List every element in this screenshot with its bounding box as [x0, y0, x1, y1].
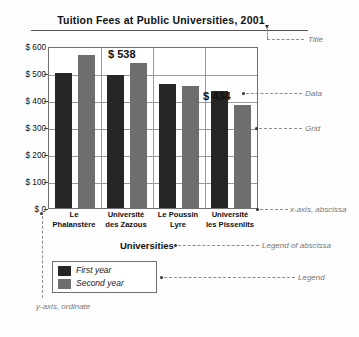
bar-second-year-universite-les-pissenlits[interactable] [234, 105, 251, 208]
yaxis-callout-dot-icon [40, 212, 43, 215]
data-callout-line [246, 93, 302, 94]
abscissa-legend-callout-dot-icon [174, 244, 177, 247]
x-category-universite-les-pissenlits: Université les Pissenlits [204, 210, 256, 229]
bar-first-year-le-poussin-lyre[interactable] [159, 84, 176, 208]
plot-area [48, 47, 258, 209]
legend-label-first-year: First year [76, 265, 111, 275]
legend-swatch-first-year [58, 266, 71, 276]
x-category-line-2: Lyre [152, 220, 204, 230]
chart-page: Tuition Fees at Public Universities, 200… [0, 0, 359, 337]
annotation-y-axis: y-axis, ordinate [36, 302, 90, 311]
annotation-legend-of-abscissa: Legend of abscissa [262, 241, 331, 250]
bar-first-year-le-phalanstere[interactable] [55, 73, 72, 208]
title-callout-vline [267, 29, 268, 39]
annotation-title: Title [308, 35, 323, 44]
y-axis-tick-marks [0, 47, 48, 209]
x-category-universite-des-zazous: Université des Zazous [100, 210, 152, 229]
bar-group-le-poussin-lyre [153, 48, 205, 208]
bar-first-year-universite-des-zazous[interactable] [107, 75, 124, 208]
bar-second-year-universite-des-zazous[interactable] [130, 63, 147, 208]
legend-swatch-second-year [58, 279, 71, 289]
data-label-538: $ 538 [108, 48, 136, 60]
xaxis-callout-line [260, 209, 288, 210]
data-label-434: $ 434 [203, 90, 231, 102]
annotation-x-axis: x-axis, abscissa [290, 205, 346, 214]
grid-callout-line [259, 128, 302, 129]
xaxis-callout-dot-icon [256, 208, 259, 211]
title-callout-line [267, 39, 304, 40]
x-category-line-1: Université [204, 210, 256, 220]
x-category-le-phalanstere: Le Phalanstère [48, 210, 100, 229]
x-category-line-1: Le Poussin [152, 210, 204, 220]
bar-second-year-le-poussin-lyre[interactable] [182, 86, 199, 208]
legend-callout-dot-icon [160, 276, 163, 279]
bar-group-universite-des-zazous [101, 48, 153, 208]
x-axis-title: Universities [120, 240, 174, 251]
legend-label-second-year: Second year [76, 278, 124, 288]
bar-second-year-le-phalanstere[interactable] [78, 55, 95, 208]
chart-legend: First year Second year [52, 261, 157, 293]
grid-callout-dot-icon [255, 127, 258, 130]
bar-group-le-phalanstere [49, 48, 101, 208]
x-category-line-1: Le Phalanstère [48, 210, 100, 229]
bar-first-year-universite-les-pissenlits[interactable] [211, 91, 228, 208]
x-axis-category-labels: Le Phalanstère Université des Zazous Le … [48, 210, 258, 240]
annotation-grid: Grid [305, 124, 320, 133]
bar-group-universite-les-pissenlits [205, 48, 257, 208]
chart-title: Tuition Fees at Public Universities, 200… [46, 14, 276, 26]
abscissa-legend-callout-line [178, 245, 259, 246]
annotation-legend: Legend [298, 273, 325, 282]
legend-callout-line [164, 277, 295, 278]
x-category-line-2: les Pissenlits [204, 220, 256, 230]
x-category-le-poussin-lyre: Le Poussin Lyre [152, 210, 204, 229]
yaxis-callout-vline [42, 216, 43, 298]
x-category-line-1: Université [100, 210, 152, 220]
annotation-data: Data [305, 89, 322, 98]
x-category-line-2: des Zazous [100, 220, 152, 230]
data-callout-dot-icon [242, 92, 245, 95]
